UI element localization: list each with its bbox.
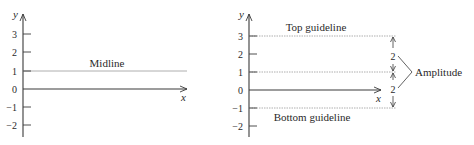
right-graph: y x 3 2 1 0 −1 −2 Top guideline Bottom g… (232, 8, 462, 137)
amplitude-bracket (398, 56, 412, 88)
tick-label-1: 1 (238, 67, 243, 78)
lower-distance-label: 2 (391, 84, 396, 95)
upper-distance-label: 2 (391, 51, 396, 62)
top-guideline-label: Top guideline (286, 21, 347, 33)
tick-label-3: 3 (238, 31, 243, 42)
tick-label-neg2: −2 (6, 120, 17, 131)
tick-label-neg1: −1 (6, 102, 17, 113)
tick-label-neg1: −1 (232, 103, 243, 114)
tick-label-0: 0 (12, 84, 17, 95)
midline-label: Midline (90, 57, 125, 69)
bottom-guideline-label: Bottom guideline (274, 111, 351, 123)
tick-label-0: 0 (238, 85, 243, 96)
left-graph: y x 3 2 1 0 −1 −2 Midline (6, 8, 187, 137)
tick-label-3: 3 (12, 29, 17, 40)
y-ticks (249, 36, 257, 126)
tick-label-1: 1 (12, 66, 17, 77)
y-ticks (23, 34, 31, 125)
amplitude-label: Amplitude (415, 66, 462, 78)
diagram-canvas: y x 3 2 1 0 −1 −2 Midline y x 3 2 1 0 −1… (0, 0, 474, 145)
y-axis-label: y (12, 8, 18, 20)
x-axis-label: x (180, 91, 186, 103)
tick-label-2: 2 (238, 49, 243, 60)
x-axis-label: x (375, 92, 381, 104)
tick-label-neg2: −2 (232, 121, 243, 132)
y-axis-label: y (238, 8, 244, 20)
tick-label-2: 2 (12, 47, 17, 58)
